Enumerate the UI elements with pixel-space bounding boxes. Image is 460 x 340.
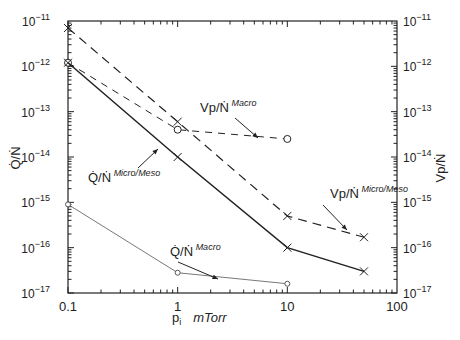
- x-marker: [360, 267, 368, 275]
- annotation-q-micro-meso: Q̇/Ṅ Micro/Meso: [88, 168, 160, 185]
- left-y-tick-label: 10−15: [21, 193, 50, 210]
- right-y-tick-label: 10−13: [403, 103, 432, 120]
- x-marker: [283, 212, 291, 220]
- x-marker: [174, 153, 182, 161]
- right-y-tick-label: 10−11: [403, 12, 431, 29]
- annotation-q-macro: Q̇/Ṅ Macro: [170, 242, 221, 259]
- diamond-marker: [285, 281, 290, 286]
- x-marker: [283, 244, 291, 252]
- left-y-tick-label: 10−12: [21, 57, 50, 74]
- right-y-tick-label: 10−15: [403, 193, 432, 210]
- x-tick-label: 0.1: [59, 299, 77, 314]
- left-y-tick-label: 10−11: [22, 12, 50, 29]
- left-y-tick-label: 10−16: [21, 239, 50, 256]
- right-y-tick-label: 10−17: [403, 284, 432, 301]
- annotation-arrow: [178, 262, 218, 279]
- series-line: [68, 28, 364, 237]
- diamond-marker: [66, 202, 71, 207]
- right-y-tick-label: 10−12: [403, 57, 432, 74]
- circle-marker: [174, 126, 181, 133]
- annotation-vp-macro: Vp/Ṅ Macro: [200, 98, 256, 115]
- annotation-vp-micro-meso: Vp/Ṅ Micro/Meso: [330, 184, 408, 201]
- x-tick-label: 10: [280, 299, 294, 314]
- chart: 0.111010010−1710−1710−1610−1610−1510−151…: [0, 0, 460, 340]
- right-y-tick-label: 10−14: [403, 148, 432, 165]
- x-tick-label: 100: [386, 299, 408, 314]
- left-y-tick-label: 10−17: [21, 284, 50, 301]
- left-y-tick-label: 10−14: [21, 148, 50, 165]
- x-marker: [360, 233, 368, 241]
- diamond-marker: [175, 270, 180, 275]
- left-y-tick-label: 10−13: [21, 103, 50, 120]
- x-marker: [174, 118, 182, 126]
- circle-marker: [284, 135, 291, 142]
- right-y-axis-label: Vp/Ṅ: [433, 154, 448, 183]
- plot-frame: [68, 21, 397, 293]
- right-y-tick-label: 10−16: [403, 239, 432, 256]
- left-y-axis-label: Q̇/Ṅ: [8, 146, 23, 169]
